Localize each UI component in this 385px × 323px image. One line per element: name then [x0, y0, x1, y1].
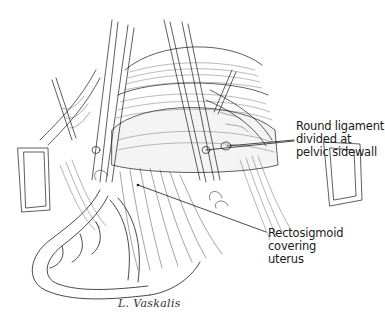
- label-line: pelvic sidewall: [296, 146, 384, 159]
- mesentery: [120, 168, 222, 270]
- left-peritoneum: [40, 70, 100, 145]
- leader-rectosigmoid: [138, 185, 266, 232]
- uterus-dome: [112, 47, 278, 173]
- pelvic-drawing: [0, 0, 385, 323]
- illustration: Round ligament divided at pelvic sidewal…: [0, 0, 385, 323]
- label-line: uterus: [268, 253, 343, 266]
- sigmoid-colon: [32, 190, 200, 299]
- label-rectosigmoid: Rectosigmoid covering uterus: [268, 227, 343, 266]
- label-round-ligament: Round ligament divided at pelvic sidewal…: [296, 120, 384, 159]
- leader-dot: [137, 184, 140, 187]
- epiploic-appendages: [95, 170, 228, 208]
- artist-signature: L. Vaskalis: [118, 297, 181, 310]
